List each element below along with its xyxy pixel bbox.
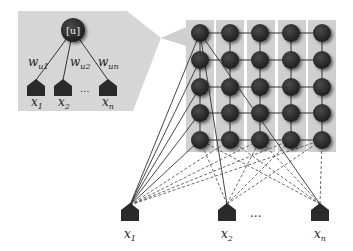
input-label-x1: x1 bbox=[124, 227, 136, 243]
inset-neuron-label: [u] bbox=[66, 25, 80, 36]
inputs-ellipsis: ... bbox=[250, 206, 261, 220]
inset-ellipsis: ... bbox=[80, 83, 90, 94]
zoom-wedge bbox=[161, 27, 186, 46]
input-x2-icon bbox=[218, 203, 236, 221]
input-xn-icon bbox=[311, 203, 329, 221]
som-diagram: ... x1 x2 xn [u] wu1 wu2 wun ... x1 x2 x… bbox=[0, 0, 353, 251]
input-label-x2: x2 bbox=[221, 227, 233, 243]
input-x1-icon bbox=[121, 203, 139, 221]
input-nodes bbox=[121, 203, 329, 221]
input-label-xn: xn bbox=[314, 227, 326, 243]
